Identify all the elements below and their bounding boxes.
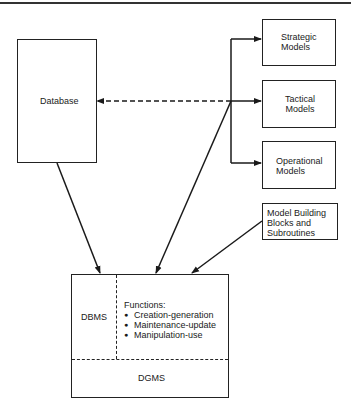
tactical-line1: Tactical <box>285 94 315 104</box>
dgms-label: DGMS <box>138 373 165 383</box>
model-building-line3: Subroutines <box>267 228 315 238</box>
tactical-models-box: Tactical Models <box>262 80 336 128</box>
strategic-line2: Models <box>281 42 310 52</box>
function-item: Manipulation-use <box>124 330 216 340</box>
tactical-line2: Models <box>286 104 315 114</box>
dgms-divider-horizontal <box>72 359 228 360</box>
tactical-models-label: Tactical Models <box>285 94 315 114</box>
strategic-line1: Strategic <box>281 32 317 42</box>
operational-line1: Operational <box>276 156 323 166</box>
functions-title: Functions: <box>124 300 216 310</box>
function-item: Maintenance-update <box>124 320 216 330</box>
dbms-divider-vertical <box>116 275 117 359</box>
database-box: Database <box>17 39 97 163</box>
database-label: Database <box>40 96 79 106</box>
functions-list: Creation-generation Maintenance-update M… <box>124 310 216 340</box>
functions-block: Functions: Creation-generation Maintenan… <box>124 300 216 340</box>
strategic-models-box: Strategic Models <box>262 19 336 66</box>
model-building-line2: Blocks and <box>267 218 311 228</box>
strategic-models-label: Strategic Models <box>281 32 317 52</box>
model-building-box: Model Building Blocks and Subroutines <box>262 203 338 240</box>
dbms-dgms-box: DBMS Functions: Creation-generation Main… <box>71 274 229 398</box>
operational-line2: Models <box>276 166 305 176</box>
model-building-label: Model Building Blocks and Subroutines <box>267 208 326 238</box>
dbms-label: DBMS <box>81 312 107 322</box>
operational-models-label: Operational Models <box>276 156 323 176</box>
model-building-line1: Model Building <box>267 208 326 218</box>
function-item: Creation-generation <box>124 310 216 320</box>
operational-models-box: Operational Models <box>262 141 336 189</box>
